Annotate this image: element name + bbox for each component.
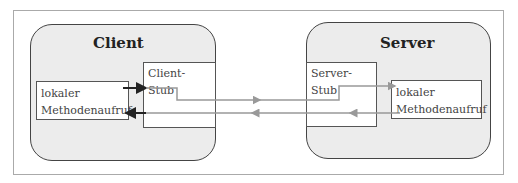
arrows [0, 0, 518, 183]
request-arrow-2 [260, 86, 395, 100]
request-arrow [146, 88, 260, 100]
